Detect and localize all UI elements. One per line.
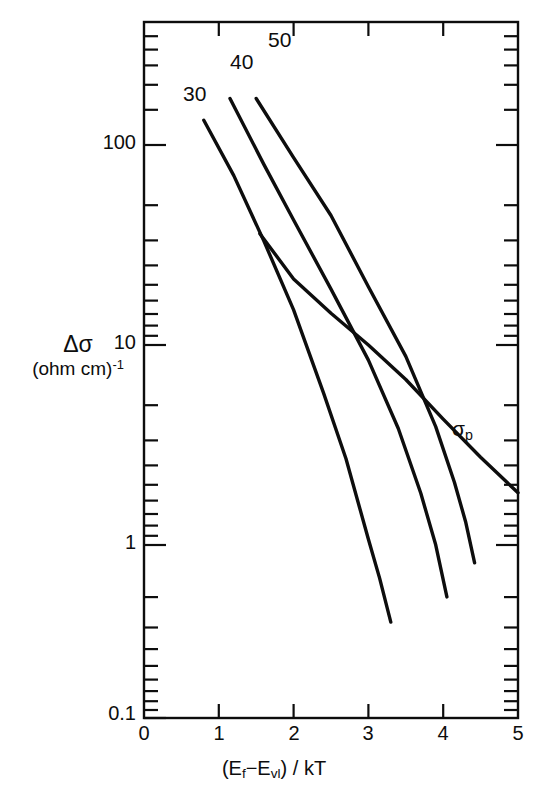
y-axis-label-units-exponent: -1 [112,357,123,372]
plot-svg [0,0,548,806]
xtick-label-0: 0 [132,722,156,745]
xtick-label-2: 2 [282,722,306,745]
x-axis-ticks [219,22,443,718]
curve-50 [256,99,474,563]
curve-label-40: 40 [230,50,253,74]
curve-label-50: 50 [268,28,291,52]
y-axis-label-units: (ohm cm) [32,358,112,379]
plot-frame [144,22,518,718]
x-axis-label-sub-vl: vl [271,766,281,781]
x-axis-label-open: (E [222,757,242,779]
sigma-symbol: σ [452,417,465,440]
ytick-label-1: 1 [108,531,136,554]
sigma-subscript-p: p [465,427,473,443]
xtick-label-1: 1 [207,722,231,745]
data-curves [204,99,518,623]
ytick-label-100: 100 [78,131,136,154]
ytick-label-0-1: 0.1 [82,702,136,725]
x-axis-label-minus-e: −E [246,757,271,779]
y-axis-label-delta-sigma: Δσ [63,331,93,357]
curve-30 [204,120,391,622]
y-axis-ticks [144,36,518,718]
y-axis-label-line1: Δσ [18,330,138,359]
xtick-label-4: 4 [431,722,455,745]
figure-container: 100 10 1 0.1 0 1 2 3 4 5 Δσ (ohm cm)-1 (… [0,0,548,806]
xtick-label-3: 3 [356,722,380,745]
curve-label-sigma-p: σp [452,417,473,443]
curve-sigma-p [260,234,518,493]
x-axis-label-close: ) / kT [281,757,327,779]
y-axis-label-line2: (ohm cm)-1 [8,357,148,381]
xtick-label-5: 5 [506,722,530,745]
curve-40 [230,99,447,597]
curve-label-30: 30 [183,82,206,106]
x-axis-label: (Ef−Evl) / kT [0,757,548,781]
